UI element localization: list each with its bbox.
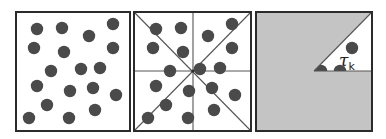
point-dot xyxy=(175,22,187,34)
point-dot xyxy=(107,42,119,54)
point-dot xyxy=(28,42,40,54)
point-dot xyxy=(214,62,226,74)
point-dot xyxy=(160,99,172,111)
point-dot xyxy=(150,80,162,92)
subscript-k: k xyxy=(348,60,355,73)
point-dot xyxy=(229,89,241,101)
point-dot xyxy=(107,18,119,30)
panel-sectors xyxy=(134,12,251,131)
point-dot xyxy=(182,112,194,124)
point-dot xyxy=(226,42,238,54)
point-dot xyxy=(75,63,87,75)
point-dot xyxy=(31,80,43,92)
point-dot xyxy=(206,82,218,94)
point-dot xyxy=(202,30,214,42)
point-dot xyxy=(110,89,122,101)
point-set xyxy=(23,18,122,124)
point-dot xyxy=(89,104,101,116)
point-dot xyxy=(208,104,220,116)
point-dot xyxy=(177,46,189,58)
point-dot xyxy=(31,23,43,35)
point-dot xyxy=(87,82,99,94)
point-dot xyxy=(150,23,162,35)
diagram-stage: τk xyxy=(0,0,386,139)
point-dot xyxy=(64,85,76,97)
point-dot xyxy=(194,63,206,75)
panel-points xyxy=(16,12,130,131)
point-dot xyxy=(226,18,238,30)
point-dot xyxy=(45,65,57,77)
point-dot xyxy=(183,85,195,97)
point-dot xyxy=(94,62,106,74)
point-dot xyxy=(83,30,95,42)
point-dot xyxy=(56,22,68,34)
sector-partition-diagram: τk xyxy=(0,0,386,139)
point-dot xyxy=(142,112,154,124)
point-dot xyxy=(147,42,159,54)
point-dot xyxy=(63,112,75,124)
point-dot xyxy=(58,46,70,58)
point-dot xyxy=(23,112,35,124)
point-dot xyxy=(41,99,53,111)
panel-sector-highlight: τk xyxy=(256,12,372,131)
point-dot xyxy=(164,65,176,77)
